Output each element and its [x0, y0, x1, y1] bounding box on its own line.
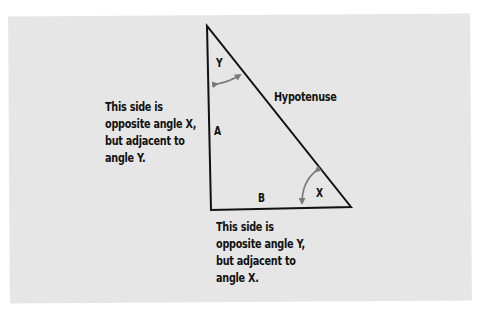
angle-x-arc-arrow	[302, 171, 316, 203]
side-a-callout-line: angle Y.	[105, 149, 196, 166]
side-b-callout-line: angle X.	[216, 269, 305, 286]
right-triangle	[207, 26, 351, 210]
side-b-callout-line: opposite angle Y,	[216, 235, 305, 252]
angle-y-label: Y	[216, 56, 222, 70]
angle-y-arc-arrow	[217, 75, 240, 84]
side-a-callout-line: but adjacent to	[105, 132, 196, 149]
angle-x-label: X	[316, 186, 323, 200]
side-b-label: B	[258, 191, 265, 205]
side-b-callout: This side is opposite angle Y, but adjac…	[216, 218, 305, 286]
side-b-callout-line: This side is	[216, 218, 305, 235]
side-a-label: A	[214, 124, 221, 138]
hypotenuse-label: Hypotenuse	[274, 88, 337, 105]
side-b-callout-line: but adjacent to	[216, 252, 305, 269]
side-a-callout-line: opposite angle X,	[105, 115, 196, 132]
side-a-callout: This side is opposite angle X, but adjac…	[105, 98, 196, 166]
side-a-callout-line: This side is	[105, 98, 196, 115]
